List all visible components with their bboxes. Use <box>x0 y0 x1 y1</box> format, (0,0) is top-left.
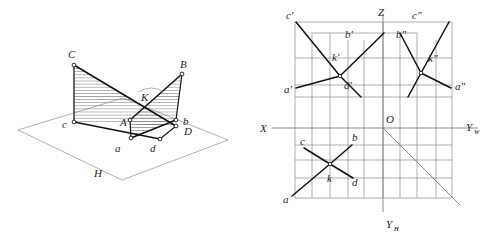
label-C: C <box>68 48 76 60</box>
geometry-figure: C B K A D c a b d H <box>0 0 497 242</box>
label-d: d <box>352 176 358 188</box>
label-axis-Z: Z <box>378 6 385 18</box>
label-b: b <box>183 115 189 127</box>
axis-Yo-diagonal <box>383 128 460 205</box>
label-b-dprime: b" <box>396 28 407 40</box>
label-axis-Yw-sub: W <box>474 128 480 135</box>
label-origin-O: O <box>386 113 394 125</box>
label-c-prime: c' <box>286 9 294 21</box>
figure-root: C B K A D c a b d H <box>0 0 497 242</box>
label-plane-H: H <box>93 167 103 179</box>
vertex-c <box>72 120 76 124</box>
vertex-k-dprime <box>419 71 422 74</box>
label-axis-Yw: Y <box>466 121 474 133</box>
vertex-C <box>72 63 76 67</box>
label-c: c <box>300 135 305 147</box>
label-b: b <box>352 131 358 143</box>
label-a-prime: a' <box>284 83 293 95</box>
label-a: a <box>283 193 289 205</box>
label-d: d <box>150 142 156 154</box>
vertex-a <box>129 136 133 140</box>
label-axis-X: X <box>259 122 268 134</box>
vertex-k-prime <box>338 74 341 77</box>
vertex-k <box>328 162 331 165</box>
right-orthographic-group: X Z O Y W Y H c' b' k' a' d' c" b" k" a"… <box>259 6 480 232</box>
label-a-dprime: a" <box>455 80 466 92</box>
label-k-prime: k' <box>332 51 340 63</box>
label-c-dprime: c" <box>412 9 422 21</box>
label-a: a <box>115 142 121 154</box>
vertex-D <box>174 124 178 128</box>
label-B: B <box>180 58 187 70</box>
label-axis-Yh-sub: H <box>393 225 399 232</box>
label-K: K <box>140 91 149 103</box>
label-c: c <box>62 118 67 130</box>
vertex-d <box>158 137 162 141</box>
label-d-prime: d' <box>344 79 353 91</box>
label-axis-Yh: Y <box>386 218 394 230</box>
top-projection-lines <box>292 145 353 196</box>
construction-grid <box>295 22 452 198</box>
vertex-B <box>180 72 184 76</box>
label-A: A <box>119 116 127 128</box>
left-pictorial-group: C B K A D c a b d H <box>18 48 228 180</box>
label-k-dprime: k" <box>428 52 438 64</box>
vertex-b <box>174 118 178 122</box>
label-b-prime: b' <box>345 28 354 40</box>
vertex-A <box>128 118 132 122</box>
